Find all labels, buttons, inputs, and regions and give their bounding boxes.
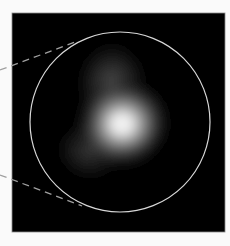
glow-core	[70, 74, 174, 174]
zoom-inset-figure	[0, 0, 230, 246]
